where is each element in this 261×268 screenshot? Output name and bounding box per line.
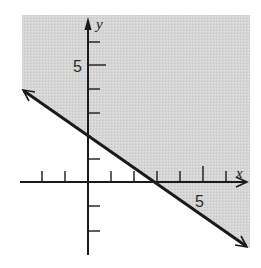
x-tick-label-5: 5 xyxy=(195,193,204,210)
y-axis-label: y xyxy=(94,16,103,32)
y-tick-label-5: 5 xyxy=(73,58,82,75)
x-axis-label: x xyxy=(235,165,243,181)
shaded-region xyxy=(22,15,250,248)
graph-canvas: x 5 y 5 xyxy=(0,0,261,268)
